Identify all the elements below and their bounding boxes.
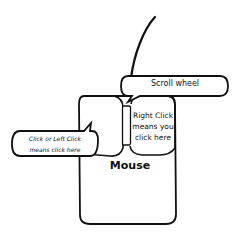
mouse-cord	[131, 17, 155, 78]
left-click-line: means click here	[14, 144, 96, 155]
left-click-label: Click or Left Click means click here	[14, 133, 96, 155]
scroll-wheel-label: Scroll wheel	[125, 79, 225, 88]
left-click-line: Click or Left Click	[14, 133, 96, 144]
right-click-line: means you	[131, 121, 175, 132]
right-click-line: Right Click	[131, 110, 175, 121]
mouse-diagram	[0, 0, 242, 238]
right-click-line: click here	[131, 132, 175, 143]
mouse-label: Mouse	[100, 160, 160, 173]
scroll-wheel	[123, 106, 131, 145]
right-click-label: Right Click means you click here	[131, 110, 175, 143]
